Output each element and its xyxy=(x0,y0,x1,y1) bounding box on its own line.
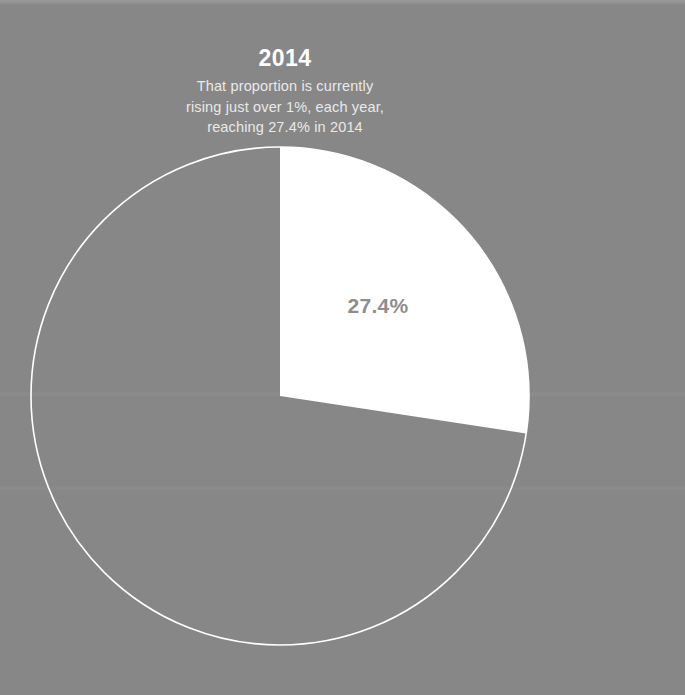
pie-chart-svg xyxy=(0,0,685,695)
pie-slice-label: 27.4% xyxy=(318,294,438,318)
pie-chart xyxy=(0,0,685,695)
pie-slice-share[interactable] xyxy=(280,147,529,433)
chart-canvas: 2014 That proportion is currently rising… xyxy=(0,0,685,695)
